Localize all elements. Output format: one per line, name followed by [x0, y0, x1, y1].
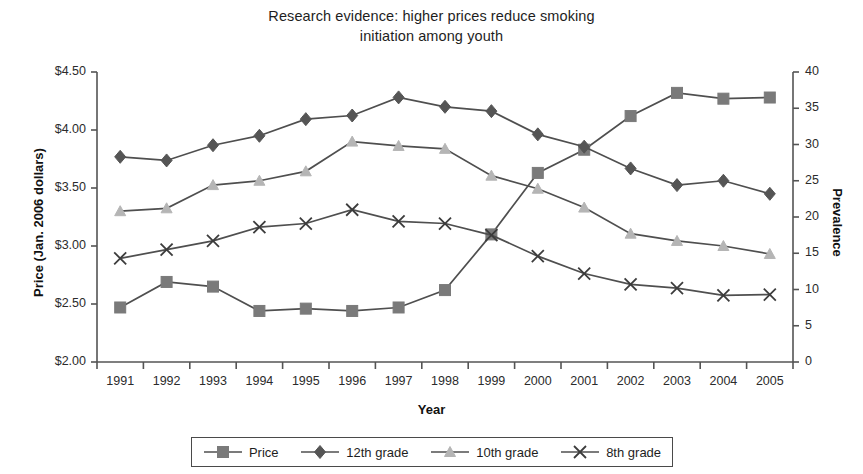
diamond-marker-icon: [208, 139, 219, 152]
x-axis-tick-label: 2003: [651, 374, 703, 388]
triangle-marker-icon: [430, 443, 470, 461]
series-price: [115, 87, 776, 316]
x-axis-title: Year: [0, 402, 863, 417]
diamond-marker-icon: [347, 109, 358, 122]
y-axis-right-tick-label: 0: [805, 354, 839, 368]
y-axis-left-tick-label: $2.00: [24, 354, 86, 368]
x-axis-tick-label: 1992: [141, 374, 193, 388]
square-marker-icon: [203, 443, 243, 461]
diamond-marker-icon: [672, 179, 683, 192]
legend-item-8th-grade[interactable]: 8th grade: [560, 443, 661, 461]
x-axis-tick-label: 1995: [280, 374, 332, 388]
square-marker-icon: [440, 285, 451, 296]
diamond-marker-icon: [315, 446, 326, 459]
diamond-marker-icon: [254, 129, 265, 142]
series-line: [120, 93, 770, 311]
y-axis-left-tick-label: $4.00: [24, 122, 86, 136]
diamond-marker-icon: [161, 154, 172, 167]
chart-figure: Research evidence: higher prices reduce …: [0, 0, 863, 474]
square-marker-icon: [161, 276, 172, 287]
triangle-marker-icon: [625, 228, 636, 238]
y-axis-right-tick-label: 40: [805, 64, 839, 78]
square-marker-icon: [764, 92, 775, 103]
diamond-marker-icon: [532, 128, 543, 141]
y-axis-right-tick-label: 5: [805, 318, 839, 332]
cross-marker-icon: [532, 250, 544, 262]
y-axis-left-tick-label: $2.50: [24, 296, 86, 310]
square-marker-icon: [347, 305, 358, 316]
x-axis-tick-label: 1993: [187, 374, 239, 388]
legend-item-label: 8th grade: [604, 445, 661, 460]
y-axis-right-tick-label: 15: [805, 245, 839, 259]
y-axis-left-tick-label: $3.50: [24, 180, 86, 194]
diamond-marker-icon: [440, 100, 451, 113]
diamond-marker-icon: [625, 162, 636, 175]
cross-marker-icon: [346, 204, 358, 216]
x-axis-tick-label: 1999: [465, 374, 517, 388]
legend-item-label: 12th grade: [344, 445, 408, 460]
x-axis-tick-label: 2004: [697, 374, 749, 388]
x-axis-tick-label: 1996: [326, 374, 378, 388]
legend-item-price[interactable]: Price: [203, 443, 279, 461]
diamond-marker-icon: [486, 105, 497, 118]
diamond-marker-icon: [764, 187, 775, 200]
triangle-marker-icon: [579, 202, 590, 212]
square-marker-icon: [300, 303, 311, 314]
triangle-marker-icon: [347, 136, 358, 146]
x-axis-tick-label: 1994: [233, 374, 285, 388]
square-marker-icon: [208, 281, 219, 292]
triangle-marker-icon: [300, 166, 311, 176]
y-axis-right-tick-label: 35: [805, 100, 839, 114]
y-axis-right-tick-label: 10: [805, 282, 839, 296]
chart-legend: Price12th grade10th grade8th grade: [191, 437, 673, 467]
diamond-marker-icon: [115, 150, 126, 163]
x-axis-tick-label: 1991: [94, 374, 146, 388]
legend-item-10th-grade[interactable]: 10th grade: [430, 443, 538, 461]
legend-item-label: Price: [247, 445, 279, 460]
square-marker-icon: [532, 167, 543, 178]
square-marker-icon: [217, 447, 228, 458]
square-marker-icon: [672, 87, 683, 98]
y-axis-right-tick-label: 25: [805, 173, 839, 187]
cross-marker-icon: [560, 443, 600, 461]
cross-marker-icon: [578, 268, 590, 280]
x-axis-tick-label: 2000: [512, 374, 564, 388]
diamond-marker-icon: [393, 91, 404, 104]
diamond-marker-icon: [300, 113, 311, 126]
x-axis-tick-label: 1998: [419, 374, 471, 388]
diamond-marker-icon: [300, 443, 340, 461]
y-axis-left-tick-label: $3.00: [24, 238, 86, 252]
square-marker-icon: [718, 93, 729, 104]
x-axis-tick-label: 1997: [373, 374, 425, 388]
diamond-marker-icon: [718, 174, 729, 187]
triangle-marker-icon: [486, 170, 497, 180]
x-axis-tick-label: 2001: [558, 374, 610, 388]
y-axis-left-tick-label: $4.50: [24, 64, 86, 78]
y-axis-right-tick-label: 20: [805, 209, 839, 223]
x-axis-tick-label: 2005: [744, 374, 796, 388]
y-axis-right-tick-label: 30: [805, 137, 839, 151]
x-axis-tick-label: 2002: [605, 374, 657, 388]
square-marker-icon: [115, 302, 126, 313]
square-marker-icon: [254, 305, 265, 316]
legend-item-12th-grade[interactable]: 12th grade: [300, 443, 408, 461]
legend-item-label: 10th grade: [474, 445, 538, 460]
square-marker-icon: [625, 111, 636, 122]
square-marker-icon: [393, 302, 404, 313]
